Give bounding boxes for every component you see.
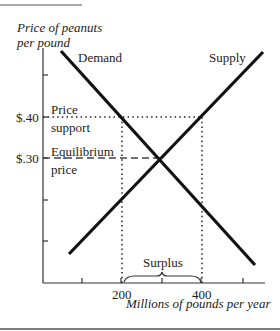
x-ticks <box>82 278 243 283</box>
equilibrium-label-line1: Equilibrium <box>51 144 114 159</box>
equilibrium-label: Equilibrium price <box>51 144 114 177</box>
y-tick-label-40: $.40 <box>16 110 39 125</box>
y-axis-label-line2: per pound <box>17 35 102 50</box>
y-axis-label: Price of peanuts per pound <box>17 20 102 50</box>
equilibrium-label-line2: price <box>51 162 114 177</box>
y-axis-label-line1: Price of peanuts <box>17 20 102 35</box>
x-axis-label: Millions of pounds per year <box>126 296 270 312</box>
supply-label: Supply <box>209 50 246 65</box>
price-support-label-line2: support <box>51 120 90 135</box>
price-support-label: Price support <box>51 102 90 135</box>
price-support-label-line1: Price <box>51 102 90 117</box>
demand-label: Demand <box>78 50 122 65</box>
surplus-label: Surplus <box>143 255 183 270</box>
y-tick-label-30: $.30 <box>16 151 39 166</box>
